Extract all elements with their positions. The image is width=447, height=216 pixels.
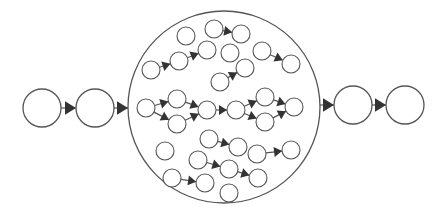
node-in1: [23, 89, 61, 127]
inner-node-e2: [229, 138, 247, 156]
arrowhead-icon: [323, 98, 334, 112]
inner-node-m6: [256, 88, 274, 106]
inner-node-d1: [211, 73, 229, 91]
inner-node-g3: [249, 169, 267, 187]
inner-node-h1: [248, 145, 266, 163]
inner-node-m5: [227, 101, 245, 119]
inner-node-m4: [198, 101, 216, 119]
node-in2: [76, 89, 114, 127]
inner-node-g2: [220, 160, 238, 178]
inner-node-i2: [196, 174, 214, 192]
inner-node-f1: [156, 142, 174, 160]
inner-node-a1: [177, 27, 195, 45]
node-out1: [334, 86, 372, 124]
arrowhead-icon: [187, 176, 196, 186]
inner-node-c2: [282, 55, 300, 73]
inner-node-b1: [142, 61, 160, 79]
inner-node-m8: [285, 98, 303, 116]
arrowhead-icon: [375, 98, 386, 112]
arrowhead-icon: [117, 101, 128, 115]
inner-node-m1: [137, 99, 155, 117]
inner-node-j1: [220, 184, 238, 202]
inner-node-e1: [200, 130, 218, 148]
inner-node-g1: [189, 151, 207, 169]
arrowhead-icon: [274, 147, 283, 157]
diagram-canvas: [0, 0, 447, 216]
inner-node-b3: [198, 41, 216, 59]
inner-node-b2: [170, 52, 188, 70]
inner-node-m3: [168, 115, 186, 133]
arrowhead-icon: [223, 26, 232, 36]
inner-node-h2: [282, 141, 300, 159]
inner-node-m2: [168, 90, 186, 108]
inner-node-a2: [205, 20, 223, 38]
process-flow-diagram: [0, 0, 447, 216]
inner-node-i1: [163, 169, 181, 187]
inner-node-c1: [253, 42, 271, 60]
arrowhead-icon: [220, 138, 229, 148]
inner-node-m7: [256, 113, 274, 131]
inner-node-b4: [221, 44, 239, 62]
arrowhead-icon: [219, 105, 227, 115]
arrowhead-icon: [65, 101, 76, 115]
inner-node-a3: [232, 25, 250, 43]
node-out2: [386, 86, 424, 124]
inner-node-d2: [236, 59, 254, 77]
